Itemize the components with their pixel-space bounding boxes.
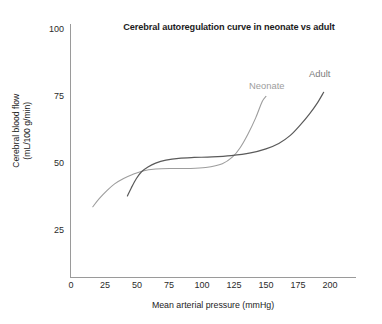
series-label-adult: Adult (309, 68, 330, 79)
series-line-adult (127, 92, 323, 196)
plot-area (0, 0, 382, 324)
series-line-neonate (93, 96, 266, 206)
series-label-neonate: Neonate (249, 80, 284, 91)
chart-figure: Cerebral autoregulation curve in neonate… (0, 0, 382, 324)
